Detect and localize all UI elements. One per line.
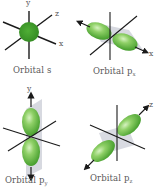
py-lobe-top <box>22 108 40 136</box>
orbital-s-panel: y z x Orbital s <box>0 0 77 90</box>
caption-text: Orbital p <box>90 173 129 183</box>
caption-subscript: z <box>129 178 132 184</box>
pz-z-axis-up <box>139 107 147 115</box>
caption-text: Orbital s <box>13 65 51 75</box>
orbital-pz-caption: Orbital pz <box>90 173 132 184</box>
caption-text: Orbital p <box>5 175 44 185</box>
s-orbital-sphere <box>19 22 39 42</box>
orbital-px-caption: Orbital px <box>93 66 136 77</box>
orbital-py-panel: y Orbital py <box>0 85 77 191</box>
orbital-pz-panel: z Orbital pz <box>77 95 154 191</box>
orbital-s-caption: Orbital s <box>13 65 51 75</box>
py-lobe-bottom <box>22 138 40 166</box>
orbital-py-caption: Orbital py <box>5 175 48 186</box>
s-axis-label-x: x <box>59 39 63 48</box>
s-axis-label-z: z <box>55 9 59 18</box>
pz-z-axis-down <box>86 160 94 168</box>
pz-axis-label-z: z <box>149 100 153 109</box>
caption-subscript: x <box>132 71 135 77</box>
caption-text: Orbital p <box>93 66 132 76</box>
orbital-px-panel: x Orbital px <box>77 0 154 90</box>
s-axis-label-y: y <box>26 0 30 7</box>
caption-subscript: y <box>44 180 47 186</box>
px-axis-label-x: x <box>149 49 153 58</box>
orbital-s-figure <box>0 0 77 90</box>
